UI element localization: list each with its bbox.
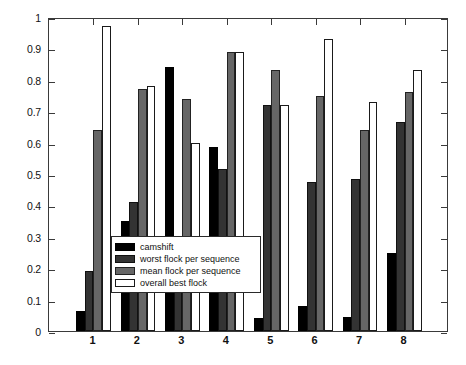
y-axis-tick-right	[441, 113, 447, 114]
y-axis-tick-label: 0.3	[27, 232, 41, 244]
legend-label: overall best flock	[140, 278, 207, 288]
bar	[316, 96, 325, 332]
x-axis-tick-top	[316, 19, 317, 25]
bar	[405, 92, 414, 331]
y-axis-tick-label: 1	[35, 12, 41, 24]
x-axis-tick-top	[271, 19, 272, 25]
bar	[360, 130, 369, 331]
x-axis-tick-label: 7	[356, 334, 362, 346]
bar	[138, 89, 147, 331]
bar	[263, 105, 272, 331]
y-axis-tick-right	[441, 82, 447, 83]
y-axis-tick	[49, 239, 55, 240]
y-axis-tick	[49, 50, 55, 51]
bar	[396, 122, 405, 331]
y-axis-tick-label: 0.8	[27, 75, 41, 87]
legend-swatch	[115, 243, 135, 251]
y-axis-tick	[49, 176, 55, 177]
y-axis-tick	[49, 113, 55, 114]
y-axis-tick	[49, 302, 55, 303]
legend-item: overall best flock	[115, 277, 256, 288]
x-axis-tick-label: 6	[312, 334, 318, 346]
bar	[147, 86, 156, 331]
y-axis-tick-right	[441, 145, 447, 146]
x-axis-tick-top	[360, 19, 361, 25]
bar	[387, 253, 396, 332]
y-axis-tick-right	[441, 19, 447, 20]
bar	[324, 39, 333, 331]
bar	[369, 102, 378, 331]
x-axis-tick-label: 1	[89, 334, 95, 346]
bar	[413, 70, 422, 331]
x-axis-tick-label: 3	[178, 334, 184, 346]
bar	[85, 271, 94, 331]
x-axis-tick-top	[138, 19, 139, 25]
bar	[307, 182, 316, 331]
y-axis-tick-right	[441, 50, 447, 51]
legend-swatch	[115, 255, 135, 263]
chart-legend: camshiftworst flock per sequencemean flo…	[111, 236, 261, 293]
x-axis-tick-labels: 12345678	[48, 334, 448, 354]
legend-item: mean flock per sequence	[115, 265, 256, 276]
y-axis-tick	[49, 19, 55, 20]
legend-item: worst flock per sequence	[115, 253, 256, 264]
y-axis-tick-right	[441, 207, 447, 208]
y-axis-tick	[49, 207, 55, 208]
x-axis-tick-label: 8	[400, 334, 406, 346]
x-axis-tick-label: 4	[223, 334, 229, 346]
bar	[351, 179, 360, 331]
bar	[343, 317, 352, 331]
x-axis-tick-top	[405, 19, 406, 25]
x-axis-tick-label: 5	[267, 334, 273, 346]
y-axis-tick-labels: 00.10.20.30.40.50.60.70.80.91	[0, 18, 46, 332]
legend-swatch	[115, 279, 135, 287]
y-axis-tick	[49, 82, 55, 83]
bar-chart-figure: fraction of sequence tracked 00.10.20.30…	[0, 0, 466, 365]
bar	[93, 130, 102, 331]
y-axis-tick-label: 0.4	[27, 200, 41, 212]
legend-label: camshift	[140, 242, 174, 252]
y-axis-tick-right	[441, 270, 447, 271]
y-axis-tick-label: 0.7	[27, 106, 41, 118]
legend-item: camshift	[115, 241, 256, 252]
y-axis-tick-right	[441, 176, 447, 177]
bar	[271, 70, 280, 331]
y-axis-tick	[49, 270, 55, 271]
y-axis-tick-label: 0	[35, 326, 41, 338]
bar	[254, 318, 263, 331]
bar	[298, 306, 307, 331]
y-axis-tick-label: 0.1	[27, 295, 41, 307]
y-axis-tick-label: 0.2	[27, 263, 41, 275]
y-axis-tick-right	[441, 302, 447, 303]
y-axis-tick-label: 0.9	[27, 43, 41, 55]
y-axis-tick-label: 0.5	[27, 169, 41, 181]
legend-label: worst flock per sequence	[140, 254, 240, 264]
x-axis-tick-top	[227, 19, 228, 25]
plot-area: camshiftworst flock per sequencemean flo…	[48, 18, 448, 332]
x-axis-tick-top	[93, 19, 94, 25]
y-axis-tick-right	[441, 239, 447, 240]
bar	[280, 105, 289, 331]
legend-label: mean flock per sequence	[140, 266, 241, 276]
bar	[76, 311, 85, 331]
bar	[182, 99, 191, 331]
x-axis-tick-top	[182, 19, 183, 25]
bar	[102, 26, 111, 331]
legend-swatch	[115, 267, 135, 275]
x-axis-tick-label: 2	[134, 334, 140, 346]
y-axis-tick-label: 0.6	[27, 138, 41, 150]
y-axis-tick	[49, 145, 55, 146]
